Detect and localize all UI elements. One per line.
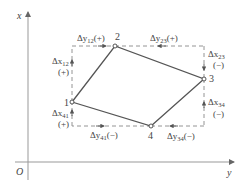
y-axis-label: y xyxy=(226,167,232,178)
label-dx12: Δx12 xyxy=(52,56,69,67)
point-1-label: 1 xyxy=(64,97,69,108)
label-dx12-sign: (+) xyxy=(58,67,69,77)
label-dx41-sign: (+) xyxy=(58,119,69,129)
point-2-label: 2 xyxy=(115,31,120,42)
label-dy23: Δy23(+) xyxy=(150,33,178,44)
point-4-marker xyxy=(149,124,153,128)
label-dx34: Δx34 xyxy=(208,97,226,108)
point-3-label: 3 xyxy=(209,73,214,84)
dashed-increment-box xyxy=(72,46,204,126)
label-dx34-sign: (−) xyxy=(213,109,224,119)
axes: x y O xyxy=(15,10,234,180)
label-dx23-sign: (−) xyxy=(213,60,224,70)
x-axis-label: x xyxy=(16,10,22,21)
point-3-marker xyxy=(202,77,206,81)
origin-label: O xyxy=(16,166,23,177)
label-dx41: Δx41 xyxy=(52,108,69,119)
label-dx23: Δx23 xyxy=(208,49,225,60)
label-dy41: Δy41(−) xyxy=(90,130,118,141)
label-dy34: Δy34(−) xyxy=(167,131,195,142)
increment-arrows xyxy=(72,46,204,126)
traverse-points: 1 2 3 4 xyxy=(64,31,214,141)
coordinate-increment-diagram: x y O 1 2 3 4 xyxy=(0,0,245,185)
traverse-polygon xyxy=(72,46,204,126)
label-dy12: Δy12(+) xyxy=(77,33,105,44)
point-1-marker xyxy=(70,100,74,104)
point-4-label: 4 xyxy=(148,130,153,141)
point-2-marker xyxy=(113,44,117,48)
